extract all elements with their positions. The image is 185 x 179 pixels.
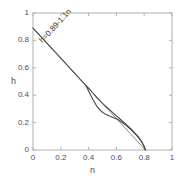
y-tick-label: 1 <box>0 9 29 17</box>
x-tick-label: 1 <box>157 154 185 162</box>
x-tick-label: 0.2 <box>46 154 76 162</box>
y-tick-label: 0.8 <box>0 36 29 44</box>
y-tick-label: 0 <box>0 146 29 154</box>
x-tick-label: 0.4 <box>74 154 104 162</box>
chart-figure: 00.20.40.60.81 00.20.40.60.81 h=0.89-1.1… <box>0 0 185 179</box>
y-tick-label: 0.4 <box>0 91 29 99</box>
x-tick-label: 0 <box>18 154 48 162</box>
x-tick-label: 0.6 <box>101 154 131 162</box>
y-tick-label: 0.6 <box>0 64 29 72</box>
x-axis-title: n <box>0 166 185 175</box>
y-axis-title: h <box>11 77 16 86</box>
y-tick-label: 0.2 <box>0 119 29 127</box>
x-tick-label: 0.8 <box>129 154 159 162</box>
